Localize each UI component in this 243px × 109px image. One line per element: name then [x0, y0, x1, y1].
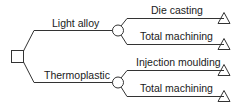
chance-node-light-alloy — [113, 25, 124, 36]
outcome-label-injection-moulding: Injection moulding — [136, 57, 221, 68]
branch-label-light-alloy: Light alloy — [52, 18, 99, 29]
branch-label-thermoplastic: Thermoplastic — [44, 70, 110, 81]
outcome-label-die-casting: Die casting — [151, 5, 203, 16]
branch-line-die-casting — [121, 19, 224, 27]
branch-line-injection-moulding — [121, 71, 224, 79]
decision-node-square — [12, 51, 24, 63]
outcome-label-total-machining-1: Total machining — [140, 31, 213, 42]
chance-node-thermoplastic — [113, 77, 124, 88]
outcome-label-total-machining-2: Total machining — [140, 83, 213, 94]
branch-line-light-alloy — [24, 31, 113, 52]
